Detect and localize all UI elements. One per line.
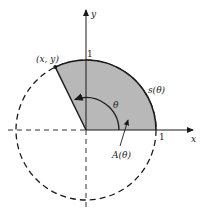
area-label: A(θ) — [111, 150, 131, 160]
y-tick-label: 1 — [87, 49, 93, 59]
y-axis-label: y — [90, 9, 97, 19]
unit-circle-sector-diagram: (x, y) y x 1 1 s(θ) θ A(θ) — [0, 0, 208, 217]
arc-length-label: s(θ) — [148, 85, 166, 95]
sector-area — [55, 60, 156, 130]
point-label: (x, y) — [36, 54, 59, 64]
x-tick-label: 1 — [159, 132, 165, 142]
angle-label: θ — [113, 100, 119, 110]
x-axis-label: x — [191, 134, 196, 144]
point-xy-dot — [53, 65, 57, 69]
